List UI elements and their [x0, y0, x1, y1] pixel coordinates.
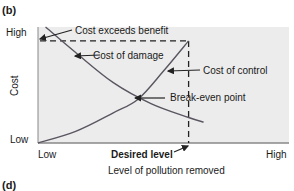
x-axis-label: Level of pollution removed [108, 165, 225, 176]
annotation-break-even: Break-even point [170, 92, 246, 103]
y-axis-label: Cost [9, 75, 20, 96]
plot-area [38, 27, 289, 143]
y-tick-high: High [6, 27, 27, 38]
arrow-desired-level [174, 146, 188, 152]
annotation-desired-level: Desired level [111, 149, 173, 160]
y-tick-low: Low [10, 134, 29, 145]
panel-label-b: (b) [2, 4, 16, 16]
x-tick-low: Low [38, 149, 57, 160]
annotation-cost-exceeds-benefit: Cost exceeds benefit [75, 25, 169, 36]
annotation-cost-of-damage: Cost of damage [93, 50, 164, 61]
chart: (b) High Low Cost Cost exceeds benefit C… [0, 0, 294, 191]
annotation-cost-of-control: Cost of control [203, 65, 267, 76]
x-tick-high: High [266, 149, 287, 160]
panel-label-d: (d) [2, 179, 16, 191]
